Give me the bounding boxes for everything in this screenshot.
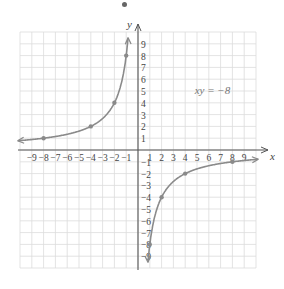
data-point <box>124 53 128 57</box>
data-point <box>148 242 152 246</box>
svg-text:3: 3 <box>171 153 176 163</box>
svg-text:2: 2 <box>141 122 146 132</box>
svg-text:−1: −1 <box>141 158 151 168</box>
svg-text:2: 2 <box>159 153 164 163</box>
hyperbola-graph: xy−9−8−7−6−5−4−3−2−1123456789987654321−1… <box>0 0 284 289</box>
svg-text:−4: −4 <box>86 153 96 163</box>
svg-text:3: 3 <box>141 111 146 121</box>
svg-text:4: 4 <box>141 99 146 109</box>
svg-text:−7: −7 <box>141 229 151 239</box>
svg-text:−5: −5 <box>74 153 84 163</box>
svg-text:−8: −8 <box>39 153 49 163</box>
svg-text:−7: −7 <box>50 153 60 163</box>
data-point <box>159 195 163 199</box>
svg-text:9: 9 <box>242 153 247 163</box>
data-point <box>112 101 116 105</box>
equation-label: xy = −8 <box>194 84 231 96</box>
tick-labels: −9−8−7−6−5−4−3−2−1123456789987654321−1−2… <box>27 40 247 262</box>
svg-text:−9: −9 <box>27 153 37 163</box>
svg-text:5: 5 <box>141 87 146 97</box>
svg-text:−2: −2 <box>109 153 119 163</box>
svg-text:−6: −6 <box>141 217 151 227</box>
data-point <box>183 171 187 175</box>
svg-text:7: 7 <box>141 63 146 73</box>
curve-right-branch <box>148 159 259 262</box>
data-point <box>89 124 93 128</box>
svg-text:7: 7 <box>218 153 223 163</box>
svg-text:6: 6 <box>206 153 211 163</box>
data-point <box>230 160 234 164</box>
svg-text:−1: −1 <box>121 153 131 163</box>
x-axis-label: x <box>269 150 275 162</box>
svg-text:8: 8 <box>141 52 146 62</box>
data-point <box>41 136 45 140</box>
svg-text:1: 1 <box>141 134 146 144</box>
svg-text:−3: −3 <box>98 153 108 163</box>
svg-text:9: 9 <box>141 40 146 50</box>
svg-text:−6: −6 <box>62 153 72 163</box>
curve-left-branch <box>18 38 129 141</box>
svg-text:5: 5 <box>195 153 200 163</box>
svg-text:−2: −2 <box>141 170 151 180</box>
svg-text:−3: −3 <box>141 181 151 191</box>
svg-text:4: 4 <box>183 153 188 163</box>
svg-text:6: 6 <box>141 75 146 85</box>
svg-text:−4: −4 <box>141 193 151 203</box>
y-axis-label: y <box>126 18 132 30</box>
svg-text:−5: −5 <box>141 205 151 215</box>
